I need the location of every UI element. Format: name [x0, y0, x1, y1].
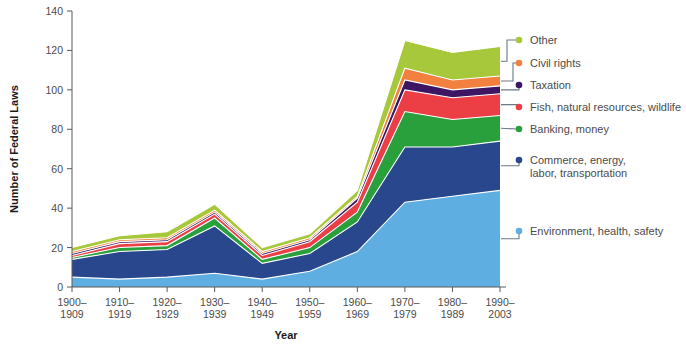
legend-leader-line	[501, 63, 517, 81]
legend-leader-line	[501, 40, 517, 61]
legend-color-dot	[516, 228, 523, 235]
legend-item-label[interactable]: Environment, health, safety	[530, 225, 664, 237]
legend-item-label-line2[interactable]: labor, transportation	[530, 167, 627, 179]
y-tick-label: 0	[57, 281, 63, 293]
area-series-group	[72, 41, 500, 287]
legend-color-dot	[516, 157, 523, 164]
legend-leader-line	[501, 128, 517, 129]
legend-item-label[interactable]: Fish, natural resources, wildlife	[530, 101, 681, 113]
x-tick-label: 1960–	[343, 296, 372, 308]
legend-item-label[interactable]: Banking, money	[530, 123, 609, 135]
y-tick-label: 60	[51, 163, 63, 175]
x-tick-label: 1900–	[57, 296, 86, 308]
x-tick-label: 1970–	[390, 296, 419, 308]
y-tick-label: 140	[45, 5, 63, 17]
x-tick-label: 1959	[298, 308, 322, 320]
x-tick-group: 1900–19091910–19191920–19291930–19391940…	[57, 287, 514, 320]
y-tick-label: 40	[51, 202, 63, 214]
x-tick-label: 1980–	[438, 296, 467, 308]
legend-color-dot	[516, 126, 523, 133]
chart-svg: 020406080100120140 1900–19091910–1919192…	[0, 0, 686, 345]
x-tick-label: 1949	[251, 308, 275, 320]
x-tick-label: 1920–	[153, 296, 182, 308]
x-axis-title: Year	[274, 329, 298, 341]
x-tick-label: 1989	[441, 308, 465, 320]
legend-color-dot	[516, 82, 523, 89]
legend-item-label[interactable]: Commerce, energy,	[530, 154, 626, 166]
x-tick-label: 1930–	[200, 296, 229, 308]
legend-color-dot	[516, 104, 523, 111]
legend-color-dot	[516, 60, 523, 67]
y-tick-label: 120	[45, 44, 63, 56]
x-tick-label: 2003	[488, 308, 512, 320]
y-tick-group: 020406080100120140	[45, 5, 72, 293]
x-tick-label: 1919	[108, 308, 132, 320]
stacked-area-chart: 020406080100120140 1900–19091910–1919192…	[0, 0, 686, 345]
legend-item-label[interactable]: Other	[530, 34, 558, 46]
x-tick-label: 1950–	[295, 296, 324, 308]
legend-item-label[interactable]: Taxation	[530, 79, 571, 91]
legend-item-label[interactable]: Civil rights	[530, 57, 581, 69]
y-axis-title: Number of Federal Laws	[8, 85, 20, 213]
legend-color-dot	[516, 37, 523, 44]
x-tick-label: 1939	[203, 308, 227, 320]
x-tick-label: 1990–	[485, 296, 514, 308]
x-tick-label: 1979	[393, 308, 417, 320]
x-tick-label: 1929	[155, 308, 179, 320]
x-tick-label: 1909	[60, 308, 84, 320]
x-tick-label: 1969	[346, 308, 370, 320]
y-tick-label: 20	[51, 242, 63, 254]
x-tick-label: 1940–	[248, 296, 277, 308]
y-tick-label: 100	[45, 84, 63, 96]
y-tick-label: 80	[51, 123, 63, 135]
legend-group: OtherCivil rightsTaxationFish, natural r…	[501, 34, 681, 239]
x-tick-label: 1910–	[105, 296, 134, 308]
